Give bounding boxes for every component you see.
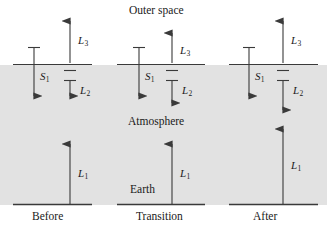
flux-label-s1-transition: S1 [145, 71, 154, 82]
flux-label-s1-after: S1 [255, 71, 264, 82]
flux-label-l1-transition: L1 [180, 168, 190, 179]
flux-subscript: 2 [299, 89, 303, 98]
flux-label-s1-before: S1 [40, 71, 49, 82]
flux-subscript: 1 [186, 172, 190, 181]
flux-label-l1-before: L1 [78, 168, 88, 179]
atmosphere-band [0, 65, 327, 205]
flux-subscript: 1 [151, 75, 155, 84]
flux-subscript: 1 [261, 75, 265, 84]
flux-subscript: 1 [297, 164, 301, 173]
flux-label-l3-before: L3 [78, 35, 88, 46]
flux-subscript: 2 [86, 89, 90, 98]
flux-subscript: 3 [297, 39, 301, 48]
panel-label-before: Before [32, 211, 63, 223]
flux-subscript: 1 [46, 75, 50, 84]
panel-label-transition: Transition [136, 211, 183, 223]
region-label-outer-space: Outer space [129, 5, 184, 17]
region-label-earth: Earth [130, 184, 155, 196]
flux-letter: S [255, 70, 261, 82]
flux-label-l2-before: L2 [80, 85, 90, 96]
radiation-flux-diagram: Outer space Atmosphere Earth Before Tran… [0, 0, 327, 235]
flux-label-l1-after: L1 [291, 160, 301, 171]
panel-label-after: After [253, 211, 277, 223]
flux-subscript: 2 [188, 89, 192, 98]
flux-label-l2-after: L2 [293, 85, 303, 96]
region-label-atmosphere: Atmosphere [128, 116, 184, 128]
flux-letter: S [145, 70, 151, 82]
flux-subscript: 1 [84, 172, 88, 181]
flux-label-l3-after: L3 [291, 35, 301, 46]
flux-subscript: 3 [186, 49, 190, 58]
flux-letter: S [40, 70, 46, 82]
flux-subscript: 3 [84, 39, 88, 48]
flux-label-l2-transition: L2 [182, 85, 192, 96]
flux-label-l3-transition: L3 [180, 45, 190, 56]
